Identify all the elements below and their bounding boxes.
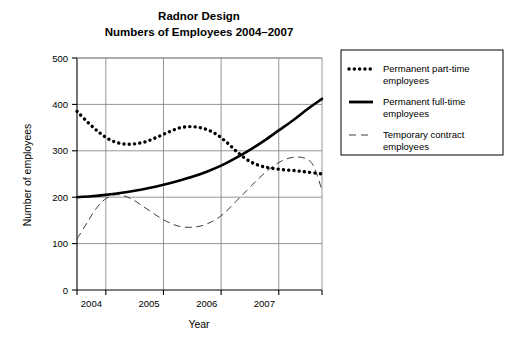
y-tick-label: 200 bbox=[52, 192, 68, 203]
legend-label-line1: Permanent full-time bbox=[383, 96, 465, 107]
x-tick-label: 2007 bbox=[254, 298, 275, 309]
legend-label-line2: employees bbox=[383, 141, 429, 152]
y-tick-label: 100 bbox=[52, 238, 68, 249]
legend-label-line1: Temporary contract bbox=[383, 129, 465, 140]
y-tick-label: 400 bbox=[52, 99, 68, 110]
legend-label-line2: employees bbox=[383, 75, 429, 86]
y-axis-title: Number of employees bbox=[21, 124, 33, 227]
y-tick-label: 0 bbox=[63, 285, 68, 296]
legend: Permanent part-timeemployeesPermanent fu… bbox=[341, 50, 503, 155]
chart-subtitle: Numbers of Employees 2004–2007 bbox=[105, 26, 294, 38]
y-tick-label: 300 bbox=[52, 145, 68, 156]
legend-label-line2: employees bbox=[383, 108, 429, 119]
x-axis-title: Year bbox=[188, 318, 210, 330]
x-tick-label: 2004 bbox=[81, 298, 102, 309]
legend-label-line1: Permanent part-time bbox=[383, 63, 470, 74]
y-tick-label: 500 bbox=[52, 53, 68, 64]
x-tick-label: 2006 bbox=[196, 298, 217, 309]
employees-line-chart: Radnor Design Numbers of Employees 2004–… bbox=[0, 0, 509, 343]
x-tick-label: 2005 bbox=[138, 298, 159, 309]
chart-title: Radnor Design bbox=[158, 10, 240, 22]
